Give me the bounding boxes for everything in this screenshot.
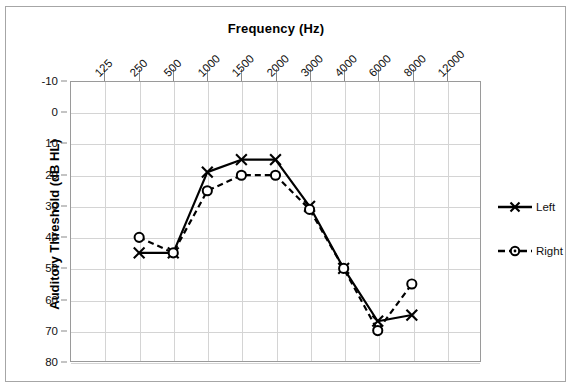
y-tick-mark [61,205,67,206]
x-tick-label: 1000 [196,52,223,79]
y-tick-label: 10 [12,137,58,149]
data-point-circle-marker [135,233,144,242]
x-tick-label: 4000 [333,52,360,79]
y-tick-mark [61,330,67,331]
chart-frame: Frequency (Hz) Auditory Threshold (dB HL… [5,6,566,382]
y-tick-mark [61,81,67,82]
data-point-circle-marker [339,264,348,273]
y-tick-mark [61,143,67,144]
x-tick-label: 125 [93,57,115,79]
data-point-circle-marker [237,171,246,180]
gridline-horizontal [71,363,480,364]
x-tick-label: 12000 [435,48,466,79]
y-tick-mark [61,362,67,363]
y-tick-label: 50 [12,262,58,274]
x-marker-icon [498,200,532,214]
data-series-layer [71,82,480,362]
legend-label-left: Left [536,201,555,213]
x-tick-label: 8000 [401,52,428,79]
y-axis-ticks: -1001020304050607080 [6,67,68,377]
series-line [139,175,412,330]
y-tick-label: 70 [12,325,58,337]
chart-title: Frequency (Hz) [70,21,482,36]
series-right [135,171,417,336]
y-tick-label: 20 [12,169,58,181]
plot-area [70,81,481,362]
legend-label-right: Right [536,245,563,257]
data-point-circle-marker [305,205,314,214]
y-tick-mark [61,174,67,175]
y-tick-mark [61,299,67,300]
y-tick-label: 40 [12,231,58,243]
y-tick-mark [61,268,67,269]
x-tick-label: 1500 [230,52,257,79]
x-tick-label: 500 [161,57,183,79]
legend-item-right: Right [498,243,563,259]
data-point-circle-marker [169,248,178,257]
circle-marker-icon [498,244,532,258]
x-tick-label: 6000 [367,52,394,79]
legend-item-left: Left [498,199,555,215]
data-point-x-marker [202,167,213,178]
x-axis-tick-labels: 1252505001000150020003000400060008000120… [6,37,573,79]
y-tick-label: 30 [12,200,58,212]
data-point-circle-marker [373,326,382,335]
y-tick-label: 80 [12,356,58,368]
data-point-circle-marker [203,186,212,195]
x-tick-label: 2000 [264,52,291,79]
y-tick-mark [61,112,67,113]
data-point-circle-marker [271,171,280,180]
x-tick-label: 250 [127,57,149,79]
data-point-circle-marker [407,279,416,288]
y-tick-label: 0 [12,106,58,118]
chart-legend: Left Right [498,199,573,269]
x-tick-label: 3000 [298,52,325,79]
y-tick-label: 60 [12,294,58,306]
y-tick-mark [61,237,67,238]
